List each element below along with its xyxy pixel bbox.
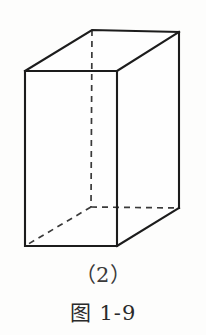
figure-caption: 图 1-9: [0, 296, 206, 326]
figure-container: （2） 图 1-9: [0, 0, 206, 335]
prism-drawing-area: [0, 0, 206, 262]
rectangular-prism-svg: [0, 0, 206, 262]
sub-caption: （2）: [0, 258, 206, 288]
